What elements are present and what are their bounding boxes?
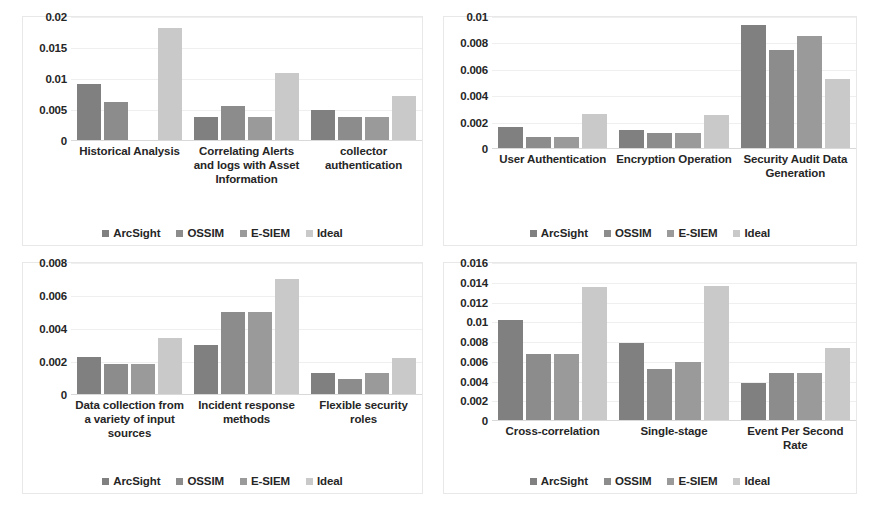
category-label-row: Historical AnalysisCorrelating Alerts an… bbox=[71, 144, 422, 186]
y-axis-tick-label: 0.006 bbox=[39, 290, 67, 302]
bar-ossim bbox=[104, 364, 128, 394]
legend-item-arcsight[interactable]: ArcSight bbox=[530, 227, 588, 239]
legend-swatch-icon bbox=[530, 478, 537, 485]
legend-label: E-SIEM bbox=[678, 475, 717, 487]
x-axis-tick-label: Security Audit Data Generation bbox=[735, 152, 856, 180]
legend-item-ossim[interactable]: OSSIM bbox=[176, 475, 224, 487]
y-axis-tick-label: 0 bbox=[482, 143, 488, 155]
chart-plot-area: 00.0020.0040.0060.0080.010.0120.0140.016 bbox=[444, 263, 856, 421]
legend-label: Ideal bbox=[744, 227, 770, 239]
legend-label: E-SIEM bbox=[251, 475, 290, 487]
bar-group bbox=[613, 263, 734, 420]
bar-arcsight bbox=[77, 357, 101, 394]
bar-ideal bbox=[704, 286, 729, 420]
bar-ideal bbox=[392, 358, 416, 394]
x-axis-category-labels: User AuthenticationEncryption OperationS… bbox=[444, 152, 856, 180]
legend-item-ideal[interactable]: Ideal bbox=[733, 475, 770, 487]
y-axis: 00.0050.010.0150.02 bbox=[23, 17, 71, 141]
bar-group bbox=[188, 263, 305, 394]
bar-group bbox=[613, 17, 734, 148]
bar-ossim bbox=[104, 102, 128, 140]
bar-arcsight bbox=[498, 320, 523, 420]
axis-gutter bbox=[23, 144, 71, 186]
x-axis-tick-label: Historical Analysis bbox=[71, 144, 188, 186]
legend-item-ideal[interactable]: Ideal bbox=[733, 227, 770, 239]
legend-label: E-SIEM bbox=[251, 227, 290, 239]
bar-arcsight bbox=[194, 117, 218, 140]
bar-arcsight bbox=[77, 84, 101, 140]
chart-plot-area: 00.0020.0040.0060.008 bbox=[23, 263, 422, 395]
category-label-row: User AuthenticationEncryption OperationS… bbox=[492, 152, 856, 180]
bar-ossim bbox=[769, 50, 794, 148]
bar-ossim bbox=[647, 133, 672, 148]
legend-item-arcsight[interactable]: ArcSight bbox=[102, 227, 160, 239]
legend-item-e-siem[interactable]: E-SIEM bbox=[667, 475, 717, 487]
bar-e-siem bbox=[248, 312, 272, 395]
y-axis-tick-label: 0.005 bbox=[39, 104, 67, 116]
bar-e-siem bbox=[248, 117, 272, 140]
legend-label: ArcSight bbox=[113, 227, 160, 239]
legend-item-ossim[interactable]: OSSIM bbox=[604, 227, 652, 239]
bar-ideal bbox=[275, 279, 299, 395]
axis-gutter bbox=[444, 152, 492, 180]
bars-plot bbox=[71, 17, 422, 141]
y-axis-tick-label: 0.016 bbox=[460, 257, 488, 269]
bar-arcsight bbox=[194, 345, 218, 395]
legend-swatch-icon bbox=[102, 478, 109, 485]
bar-e-siem bbox=[554, 137, 579, 148]
bar-e-siem bbox=[365, 117, 389, 140]
legend-item-ideal[interactable]: Ideal bbox=[306, 227, 343, 239]
bar-ossim bbox=[526, 354, 551, 420]
chart-panel-bottom-left: 00.0020.0040.0060.008Data collection fro… bbox=[0, 256, 435, 512]
x-axis-category-labels: Historical AnalysisCorrelating Alerts an… bbox=[23, 144, 422, 186]
legend-swatch-icon bbox=[306, 230, 313, 237]
bars-plot bbox=[492, 17, 856, 149]
y-axis-tick-label: 0.02 bbox=[45, 11, 67, 23]
legend-item-e-siem[interactable]: E-SIEM bbox=[667, 227, 717, 239]
legend-swatch-icon bbox=[733, 478, 740, 485]
y-axis-tick-label: 0.004 bbox=[39, 323, 67, 335]
bar-ossim bbox=[647, 369, 672, 420]
bar-e-siem bbox=[131, 364, 155, 394]
legend-item-ossim[interactable]: OSSIM bbox=[176, 227, 224, 239]
legend-item-arcsight[interactable]: ArcSight bbox=[530, 475, 588, 487]
legend-item-arcsight[interactable]: ArcSight bbox=[102, 475, 160, 487]
y-axis-tick-label: 0.01 bbox=[466, 11, 488, 23]
bar-group bbox=[305, 263, 422, 394]
x-axis-tick-label: Cross-correlation bbox=[492, 424, 613, 452]
bar-arcsight bbox=[498, 127, 523, 148]
chart-legend: ArcSightOSSIME-SIEMIdeal bbox=[23, 227, 422, 245]
bar-e-siem bbox=[797, 36, 822, 148]
bar-group bbox=[305, 17, 422, 140]
bar-arcsight bbox=[619, 130, 644, 148]
y-axis: 00.0020.0040.0060.0080.01 bbox=[444, 17, 492, 149]
bar-group bbox=[71, 17, 188, 140]
plot-container: 00.0020.0040.0060.008Data collection fro… bbox=[23, 263, 422, 493]
y-axis-tick-label: 0 bbox=[61, 389, 67, 401]
legend-item-e-siem[interactable]: E-SIEM bbox=[240, 227, 290, 239]
bar-ideal bbox=[704, 115, 729, 148]
bar-e-siem bbox=[554, 354, 579, 420]
y-axis-tick-label: 0.004 bbox=[460, 376, 488, 388]
bar-groups bbox=[71, 263, 422, 394]
legend-item-ossim[interactable]: OSSIM bbox=[604, 475, 652, 487]
chart-plot-area: 00.0050.010.0150.02 bbox=[23, 17, 422, 141]
bar-groups bbox=[492, 17, 856, 148]
y-axis-tick-label: 0.002 bbox=[39, 356, 67, 368]
category-label-row: Cross-correlationSingle-stageEvent Per S… bbox=[492, 424, 856, 452]
chart-legend: ArcSightOSSIME-SIEMIdeal bbox=[444, 227, 856, 245]
legend-label: OSSIM bbox=[187, 227, 224, 239]
bar-ideal bbox=[392, 96, 416, 140]
x-axis-tick-label: Encryption Operation bbox=[613, 152, 734, 180]
bar-group bbox=[492, 263, 613, 420]
bar-ideal bbox=[825, 79, 850, 148]
bar-group bbox=[492, 17, 613, 148]
legend-item-ideal[interactable]: Ideal bbox=[306, 475, 343, 487]
y-axis-tick-label: 0.008 bbox=[39, 257, 67, 269]
x-axis-tick-label: Flexible security roles bbox=[305, 398, 422, 440]
bar-ossim bbox=[221, 106, 245, 140]
legend-item-e-siem[interactable]: E-SIEM bbox=[240, 475, 290, 487]
legend-label: OSSIM bbox=[187, 475, 224, 487]
bar-groups bbox=[71, 17, 422, 140]
bar-group bbox=[735, 263, 856, 420]
